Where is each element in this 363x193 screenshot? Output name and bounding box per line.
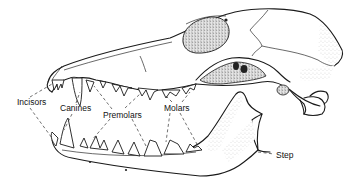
label-canines: Canines <box>60 104 91 113</box>
skull-diagram: Incisors Canines Premolars Molars Step <box>0 0 363 193</box>
label-molars: Molars <box>164 104 190 113</box>
label-premolars: Premolars <box>103 111 142 120</box>
skull-drawing <box>0 0 363 193</box>
label-step: Step <box>276 151 294 160</box>
cranium <box>48 9 343 82</box>
label-incisors: Incisors <box>17 98 46 107</box>
zygomatic-arch <box>196 58 328 116</box>
